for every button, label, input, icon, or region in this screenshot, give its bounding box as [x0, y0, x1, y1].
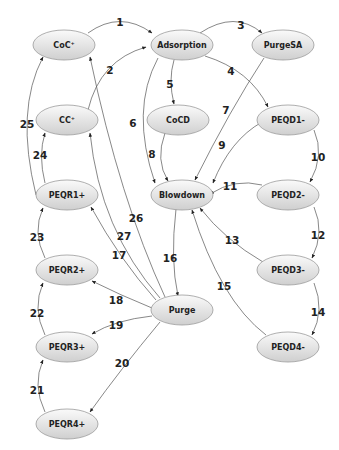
edge-label: 13	[225, 234, 240, 246]
edge-label: 12	[311, 229, 326, 241]
edge-label: 22	[30, 307, 45, 319]
node-peqd1-: PEQD1-	[257, 105, 319, 135]
node-label: PEQR1+	[49, 191, 86, 200]
node-label: Blowdown	[159, 191, 205, 200]
edge-label: 17	[112, 249, 127, 261]
edge-label: 14	[311, 306, 326, 318]
node-label: PEQD3-	[271, 266, 305, 275]
edge-label: 4	[227, 65, 234, 77]
edge-label: 10	[311, 151, 326, 163]
node-label: CC⁺	[59, 116, 75, 125]
node-label: PEQR3+	[49, 343, 86, 352]
edge-label: 24	[33, 149, 48, 161]
node-peqd2-: PEQD2-	[257, 180, 319, 210]
edge-arrow	[161, 133, 168, 181]
node-peqr1-: PEQR1+	[36, 180, 98, 210]
node-adsorption: Adsorption	[151, 30, 213, 60]
edge-label: 6	[129, 117, 136, 129]
node-label: PurgeSA	[264, 41, 303, 50]
node-blowdown: Blowdown	[151, 180, 213, 210]
process-state-diagram: CoC⁺AdsorptionPurgeSACC⁺CoCDPEQD1-PEQR1+…	[0, 0, 339, 450]
node-purgesa: PurgeSA	[252, 30, 314, 60]
node-label: CoC⁺	[53, 41, 74, 50]
edge-label: 3	[237, 19, 244, 31]
node-label: PEQD2-	[271, 191, 305, 200]
node-peqr4-: PEQR4+	[36, 409, 98, 439]
node-peqd3-: PEQD3-	[257, 255, 319, 285]
edge-label: 1	[116, 16, 123, 28]
edge-label: 25	[20, 118, 35, 130]
edge-label: 18	[109, 294, 124, 306]
node-label: Purge	[169, 306, 196, 315]
node-cocd: CoCD	[147, 105, 209, 135]
node-peqr3-: PEQR3+	[36, 332, 98, 362]
node-cc-: CC⁺	[36, 105, 98, 135]
edge-label: 27	[117, 230, 132, 242]
edge-label: 16	[163, 252, 178, 264]
node-purge: Purge	[151, 295, 213, 325]
edge-label: 5	[166, 78, 173, 90]
edge-label: 2	[106, 64, 113, 76]
edge-arrow	[88, 47, 146, 110]
edge-arrow	[90, 57, 165, 297]
edge-label: 7	[222, 104, 229, 116]
node-label: Adsorption	[157, 41, 207, 50]
edge-label: 23	[30, 231, 45, 243]
edge-label: 20	[115, 357, 130, 369]
node-label: PEQD1-	[271, 116, 305, 125]
edge-label: 19	[109, 319, 124, 331]
node-label: PEQR4+	[49, 420, 86, 429]
edge-arrow	[200, 22, 262, 34]
edge-label: 15	[217, 280, 232, 292]
edge-label: 26	[129, 212, 144, 224]
edge-label: 9	[218, 139, 225, 151]
edge-label: 21	[30, 384, 45, 396]
node-label: PEQR2+	[49, 266, 86, 275]
edge-label: 11	[223, 180, 238, 192]
node-label: CoCD	[166, 116, 190, 125]
nodes-layer: CoC⁺AdsorptionPurgeSACC⁺CoCDPEQD1-PEQR1+…	[33, 30, 319, 439]
node-coc-: CoC⁺	[33, 30, 95, 60]
node-peqr2-: PEQR2+	[36, 255, 98, 285]
node-label: PEQD4-	[271, 343, 305, 352]
node-peqd4-: PEQD4-	[257, 332, 319, 362]
edge-label: 8	[148, 148, 155, 160]
edge-arrow	[205, 56, 268, 107]
